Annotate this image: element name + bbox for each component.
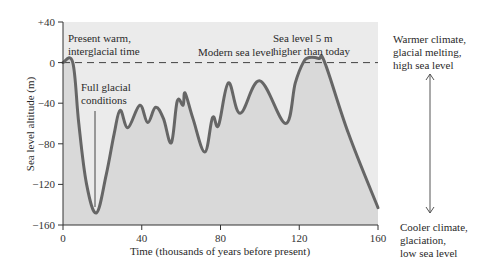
x-tick-label: 160 [370,232,387,244]
present-annotation-line1: Present warm, [68,32,131,44]
high-sea-annotation-line2: higher than today [273,45,350,57]
y-tick-label: −160 [32,219,55,231]
glacial-annotation-line1: Full glacial [81,81,131,93]
modern-sea-level-label: Modern sea level [198,46,274,58]
warm-annotation-line2: glacial melting, [393,46,462,58]
x-tick-label: 120 [291,232,308,244]
cool-annotation-line1: Cooler climate, [400,221,468,233]
sea-level-chart: +400−40−80−120−16004080120160 Sea level … [0,0,488,269]
climate-double-arrow-icon [426,74,434,213]
y-tick-label: 0 [50,57,56,69]
x-tick-label: 0 [60,232,66,244]
glacial-annotation-line2: conditions [81,94,127,106]
high-sea-annotation-line1: Sea level 5 m [273,32,333,44]
warm-annotation-line3: high sea level [393,59,453,71]
x-axis-label: Time (thousands of years before present) [130,245,310,258]
warm-annotation-line1: Warmer climate, [393,33,466,45]
x-tick-label: 80 [215,232,227,244]
present-annotation-line2: interglacial time [68,45,140,57]
y-axis-label: Sea level altitude (m) [24,76,37,171]
cool-annotation-line3: low sea level [400,247,457,259]
cool-annotation-line2: glaciation, [400,234,446,246]
x-tick-label: 40 [136,232,148,244]
y-tick-label: +40 [38,16,56,28]
y-tick-label: −120 [32,178,55,190]
y-tick-label: −80 [38,138,56,150]
y-tick-label: −40 [38,97,56,109]
